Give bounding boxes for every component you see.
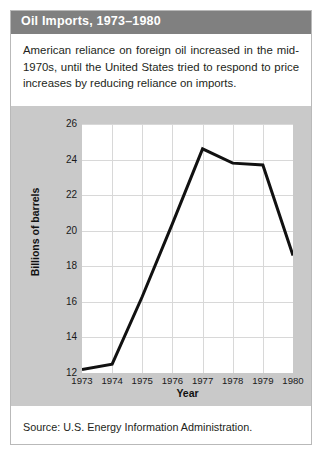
figure-card: Oil Imports, 1973–1980 American reliance… xyxy=(10,10,312,445)
plot-area xyxy=(82,124,293,373)
x-axis-tick-label: 1976 xyxy=(162,375,183,386)
x-axis-tick-label: 1977 xyxy=(192,375,213,386)
source-block: Source: U.S. Energy Information Administ… xyxy=(11,406,311,444)
y-axis-title: Billions of barrels xyxy=(29,162,41,302)
chart-panel: 1214161820222426 Billions of barrels 197… xyxy=(11,106,311,406)
y-axis-tick-label: 16 xyxy=(66,297,77,307)
y-axis-tick-label: 22 xyxy=(66,190,77,200)
description-block: American reliance on foreign oil increas… xyxy=(11,34,311,106)
y-axis-tick-label: 18 xyxy=(66,261,77,271)
y-axis-tick-label: 24 xyxy=(66,155,77,165)
description-text: American reliance on foreign oil increas… xyxy=(23,42,299,92)
x-axis-tick-label: 1975 xyxy=(132,375,153,386)
card-title-bar: Oil Imports, 1973–1980 xyxy=(11,11,311,34)
x-axis-tick-label: 1979 xyxy=(252,375,273,386)
line-chart-svg xyxy=(82,124,293,373)
x-axis-tick-label: 1980 xyxy=(282,375,303,386)
x-axis-tick-label: 1978 xyxy=(222,375,243,386)
x-axis-title: Year xyxy=(82,387,293,399)
x-axis-tick-label: 1974 xyxy=(101,375,122,386)
y-axis-tick-label: 14 xyxy=(66,332,77,342)
y-axis-tick-label: 20 xyxy=(66,226,77,236)
y-axis-tick-label: 26 xyxy=(66,119,77,129)
source-text: Source: U.S. Energy Information Administ… xyxy=(23,421,252,433)
screenshot-root: Oil Imports, 1973–1980 American reliance… xyxy=(0,0,331,458)
data-line-oil-imports xyxy=(82,149,293,370)
y-axis-tick-labels: 1214161820222426 xyxy=(11,106,82,391)
x-axis-tick-label: 1973 xyxy=(71,375,92,386)
page-title: Oil Imports, 1973–1980 xyxy=(21,14,161,28)
grid-lines xyxy=(82,124,293,373)
